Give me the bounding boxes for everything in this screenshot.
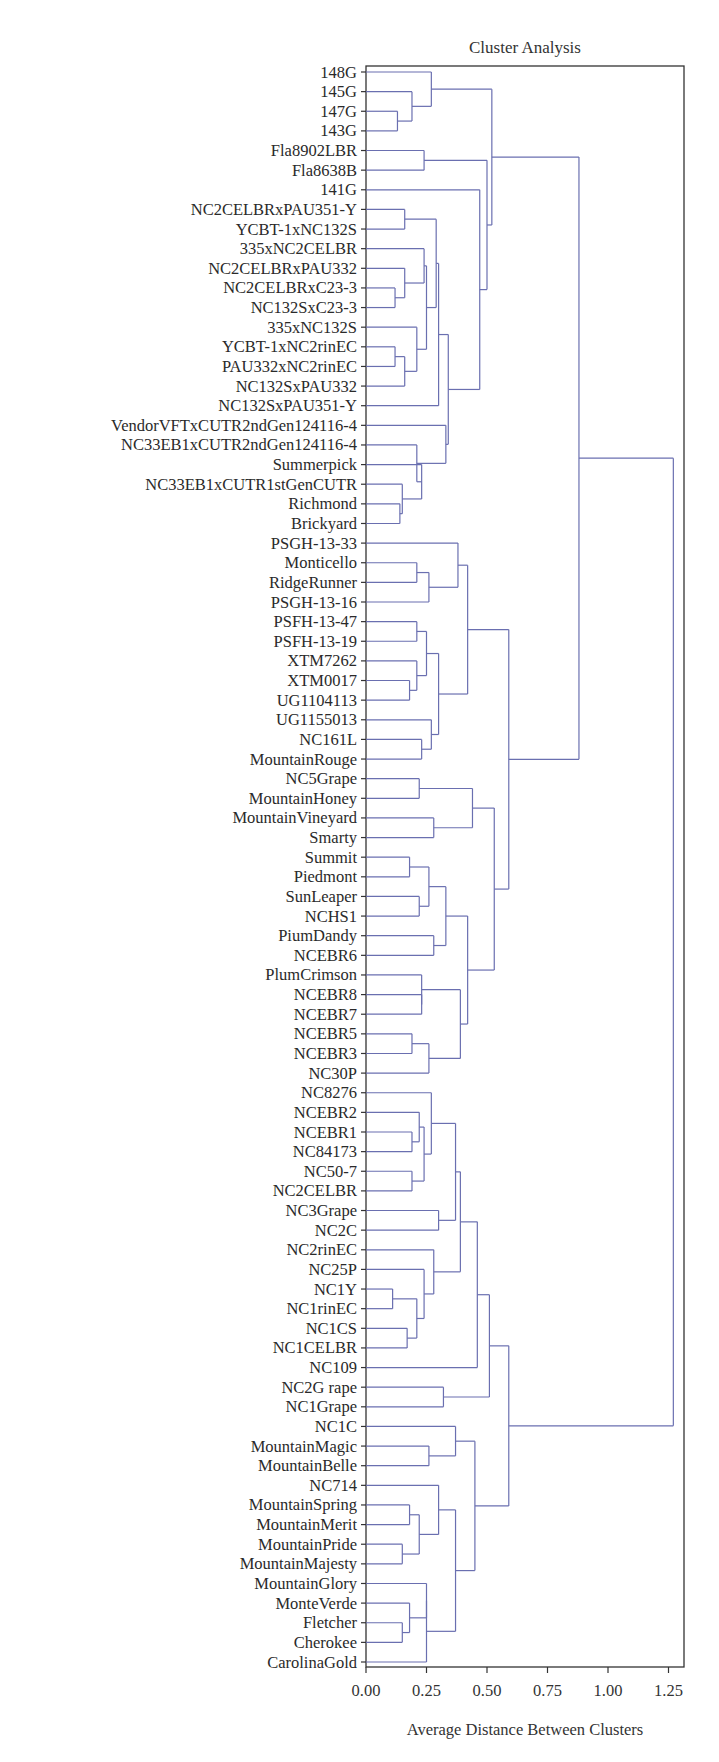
leaf-label: NCEBR8: [294, 985, 357, 1004]
leaf-label: NC8276: [301, 1083, 357, 1102]
leaf-label: NC2rinEC: [286, 1240, 357, 1259]
leaf-label: Smarty: [309, 828, 357, 847]
leaf-label: NC84173: [293, 1142, 357, 1161]
leaf-label: Summit: [305, 848, 358, 867]
leaf-label: NCEBR6: [294, 946, 357, 965]
leaf-label: NC1rinEC: [286, 1299, 357, 1318]
leaf-label: NC132SxC23-3: [251, 298, 357, 317]
leaf-label: MountainSpring: [249, 1495, 357, 1514]
leaf-label: PSFH-13-19: [274, 632, 357, 651]
leaf-label: XTM7262: [287, 651, 357, 670]
leaf-label: PAU332xNC2rinEC: [222, 357, 357, 376]
leaf-label: CarolinaGold: [267, 1653, 358, 1672]
leaf-label: NCEBR2: [294, 1103, 357, 1122]
dendrogram-branches: [366, 72, 673, 1662]
leaf-label: Summerpick: [273, 455, 358, 474]
leaf-label: PSGH-13-16: [271, 593, 357, 612]
leaf-label: MonteVerde: [275, 1594, 357, 1613]
leaf-label: MountainPride: [258, 1535, 357, 1554]
leaf-label: RidgeRunner: [269, 573, 357, 592]
leaf-label: 335xNC132S: [267, 318, 357, 337]
leaf-label: UG1155013: [276, 710, 357, 729]
leaf-label: PSFH-13-47: [274, 612, 357, 631]
dendrogram-chart: 148G145G147G143GFla8902LBRFla8638B141GNC…: [0, 0, 719, 1762]
leaf-label: MountainGlory: [254, 1574, 357, 1593]
leaf-label: VendorVFTxCUTR2ndGen124116-4: [111, 416, 357, 435]
leaf-label: NC1C: [315, 1417, 357, 1436]
leaf-label: NCHS1: [305, 907, 357, 926]
leaf-label: Richmond: [288, 494, 357, 513]
leaf-label: NCEBR1: [294, 1123, 357, 1142]
leaf-label: NC2CELBRxC23-3: [223, 278, 357, 297]
leaf-label: MountainHoney: [249, 789, 358, 808]
leaf-label: NC1CS: [306, 1319, 357, 1338]
leaf-label: NC25P: [308, 1260, 357, 1279]
leaf-label: NC1CELBR: [273, 1338, 357, 1357]
leaf-label: NC161L: [299, 730, 357, 749]
leaf-label: Monticello: [285, 553, 357, 572]
leaf-label: MountainRouge: [250, 750, 357, 769]
leaf-label: NCEBR3: [294, 1044, 357, 1063]
leaf-label: NC50-7: [304, 1162, 357, 1181]
leaf-label: NC2G rape: [281, 1378, 357, 1397]
x-tick-label: 1.00: [594, 1681, 623, 1700]
leaf-label: NC33EB1xCUTR1stGenCUTR: [145, 475, 357, 494]
x-tick-label: 0.00: [352, 1681, 381, 1700]
x-tick-label: 1.25: [654, 1681, 683, 1700]
leaf-label: NC132SxPAU332: [236, 377, 357, 396]
leaf-label: MountainMerit: [256, 1515, 357, 1534]
leaf-label: PiumDandy: [278, 926, 358, 945]
leaf-label: NCEBR5: [294, 1024, 357, 1043]
leaf-label: XTM0017: [287, 671, 357, 690]
leaf-label: NCEBR7: [294, 1005, 357, 1024]
leaf-label: YCBT-1xNC2rinEC: [222, 337, 357, 356]
leaf-label: 335xNC2CELBR: [240, 239, 357, 258]
leaf-label: NC30P: [308, 1064, 357, 1083]
leaf-label: NC109: [309, 1358, 357, 1377]
x-tick-label: 0.25: [412, 1681, 441, 1700]
leaf-label: Fletcher: [303, 1613, 358, 1632]
leaf-label: MountainMajesty: [240, 1554, 358, 1573]
leaf-label: 145G: [320, 82, 357, 101]
leaf-label: 141G: [320, 180, 357, 199]
leaf-label: NC2CELBR: [273, 1181, 357, 1200]
leaf-label: NC2C: [315, 1221, 357, 1240]
leaf-label: NC33EB1xCUTR2ndGen124116-4: [121, 435, 357, 454]
leaf-label: NC132SxPAU351-Y: [218, 396, 357, 415]
leaf-label: NC2CELBRxPAU332: [208, 259, 357, 278]
x-tick-label: 0.50: [473, 1681, 502, 1700]
leaf-label: NC5Grape: [286, 769, 357, 788]
leaf-label: PlumCrimson: [265, 965, 357, 984]
x-axis-label: Average Distance Between Clusters: [366, 1720, 684, 1740]
leaf-label: YCBT-1xNC132S: [236, 220, 357, 239]
x-axis: 0.000.250.500.751.001.25: [352, 1667, 683, 1700]
leaf-label: NC1Grape: [286, 1397, 357, 1416]
leaf-label: 147G: [320, 102, 357, 121]
leaf-label: 148G: [320, 63, 357, 82]
leaf-label: MountainBelle: [258, 1456, 357, 1475]
leaf-label: PSGH-13-33: [271, 534, 357, 553]
x-tick-label: 0.75: [533, 1681, 562, 1700]
leaf-label: NC3Grape: [286, 1201, 357, 1220]
leaf-label: NC2CELBRxPAU351-Y: [191, 200, 357, 219]
leaf-labels: 148G145G147G143GFla8902LBRFla8638B141GNC…: [111, 63, 358, 1672]
leaf-label: Fla8638B: [292, 161, 357, 180]
leaf-label: MountainMagic: [251, 1437, 357, 1456]
leaf-label: UG1104113: [277, 691, 357, 710]
leaf-label: NC714: [309, 1476, 357, 1495]
leaf-label: Brickyard: [291, 514, 358, 533]
leaf-label: MountainVineyard: [232, 808, 357, 827]
leaf-label: Cherokee: [294, 1633, 357, 1652]
leaf-label: Piedmont: [294, 867, 358, 886]
leaf-ticks: [361, 72, 366, 1662]
leaf-label: Fla8902LBR: [271, 141, 357, 160]
leaf-label: 143G: [320, 121, 357, 140]
leaf-label: SunLeaper: [286, 887, 358, 906]
leaf-label: NC1Y: [314, 1280, 357, 1299]
